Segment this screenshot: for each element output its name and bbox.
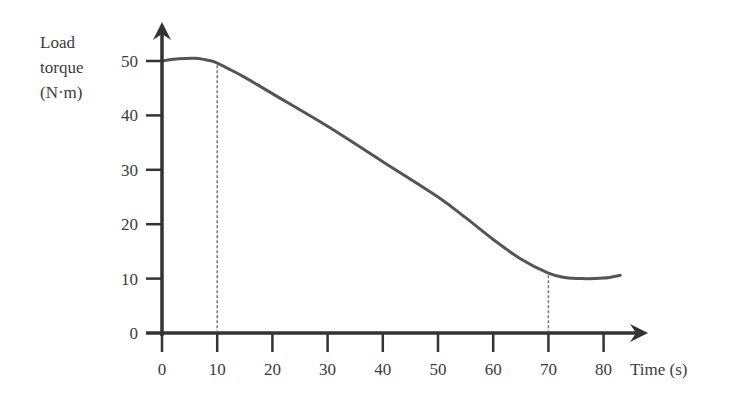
y-axis-ticks: 01020304050 bbox=[121, 52, 162, 343]
x-tick-label: 30 bbox=[319, 360, 336, 379]
x-tick-label: 10 bbox=[209, 360, 226, 379]
x-tick-label: 80 bbox=[595, 360, 612, 379]
x-tick-label: 20 bbox=[264, 360, 281, 379]
y-tick-label: 40 bbox=[121, 106, 138, 125]
x-axis-ticks: 01020304050607080 bbox=[158, 333, 612, 379]
x-tick-label: 50 bbox=[430, 360, 447, 379]
load-torque-curve bbox=[162, 58, 620, 278]
y-tick-label: 30 bbox=[121, 161, 138, 180]
y-tick-label: 20 bbox=[121, 215, 138, 234]
y-tick-label: 10 bbox=[121, 270, 138, 289]
x-tick-label: 70 bbox=[540, 360, 557, 379]
y-tick-label: 0 bbox=[130, 324, 139, 343]
x-tick-label: 0 bbox=[158, 360, 167, 379]
x-axis-label: Time (s) bbox=[630, 360, 687, 379]
y-tick-label: 50 bbox=[121, 52, 138, 71]
x-tick-label: 60 bbox=[485, 360, 502, 379]
load-torque-chart: 01020304050 01020304050607080 Time (s) bbox=[0, 0, 735, 400]
x-tick-label: 40 bbox=[374, 360, 391, 379]
dashed-reference-lines bbox=[217, 65, 548, 331]
